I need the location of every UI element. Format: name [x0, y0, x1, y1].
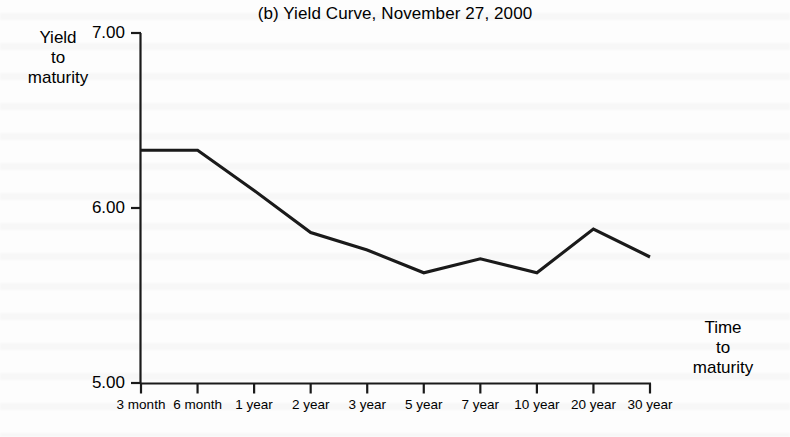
y-axis-tick-label: 5.00: [55, 374, 125, 391]
x-axis-tick-label: 30 year: [616, 398, 684, 412]
y-axis-tick-label: 7.00: [55, 24, 125, 41]
yield-curve-figure: (b) Yield Curve, November 27, 2000 Yield…: [0, 0, 790, 437]
y-axis-tick-label: 6.00: [55, 199, 125, 216]
x-axis-ticks: [141, 384, 650, 394]
yield-curve-line: [141, 150, 650, 272]
plot-area: [0, 0, 790, 437]
